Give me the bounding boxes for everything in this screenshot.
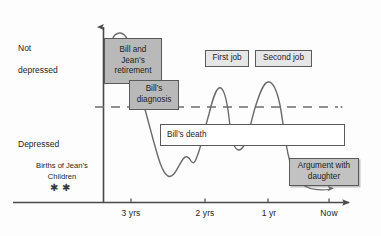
event-box-bills-death[interactable]: Bill’s death — [160, 124, 345, 146]
x-axis-label-now: Now — [309, 208, 349, 218]
label-depressed: Depressed — [18, 140, 59, 149]
event-box-second-job[interactable]: Second job — [255, 50, 312, 67]
x-axis-label-2yrs: 2 yrs — [185, 208, 225, 218]
births-annotation-line2: Children — [26, 171, 98, 182]
mood-timeline-figure: Not depressed Depressed Births of Jean’s… — [0, 0, 381, 236]
label-not-depressed: Not depressed — [18, 44, 58, 75]
label-not-depressed-line2: depressed — [18, 66, 58, 75]
births-star-markers: ✱✱ — [26, 182, 98, 193]
event-box-first-job[interactable]: First job — [205, 50, 249, 67]
event-box-argument[interactable]: Argument with daughter — [289, 158, 359, 186]
label-not-depressed-line1: Not — [18, 44, 58, 53]
x-axis-label-1yr: 1 yr — [249, 208, 289, 218]
event-box-retirement[interactable]: Bill and Jean’s retirement — [104, 38, 162, 84]
event-box-diagnosis[interactable]: Bill’s diagnosis — [129, 80, 179, 110]
births-annotation-line1: Births of Jean’s — [26, 160, 98, 171]
births-annotation: Births of Jean’s Children — [26, 160, 98, 182]
x-axis-label-3yrs: 3 yrs — [111, 208, 151, 218]
chart-canvas — [0, 0, 381, 236]
